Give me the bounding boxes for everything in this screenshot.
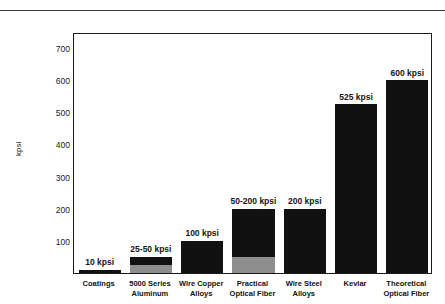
bar-wire-steel-alloys[interactable]: 200 kpsi <box>284 34 326 273</box>
bar-5000-series-aluminum[interactable]: 25-50 kpsi <box>130 34 172 273</box>
x-label-coatings: Coatings <box>73 279 124 289</box>
bar-practical-optical-fiber[interactable]: 50-200 kpsi <box>232 34 274 273</box>
x-label-practical-optical-fiber: PracticalOptical Fiber <box>227 279 278 298</box>
x-label-wire-steel-alloys: Wire SteelAlloys <box>278 279 329 298</box>
bar-wire-copper-alloys[interactable]: 100 kpsi <box>181 34 223 273</box>
bar-segment-upper <box>335 104 377 273</box>
bar-segment-upper <box>181 241 223 273</box>
bar-value-label: 525 kpsi <box>339 93 373 102</box>
bar-segment-upper <box>386 80 428 273</box>
y-tick-label-600: 600 <box>56 76 70 86</box>
bar-value-label: 200 kpsi <box>288 197 322 206</box>
x-label-theoretical-optical-fiber: TheoreticalOptical Fiber <box>381 279 432 298</box>
bar-theoretical-optical-fiber[interactable]: 600 kpsi <box>386 34 428 273</box>
y-tick-label-400: 400 <box>56 140 70 150</box>
bar-segment-upper <box>232 209 274 257</box>
bar-value-label: 600 kpsi <box>391 69 425 78</box>
y-tick-label-100: 100 <box>56 237 70 247</box>
x-label-5000-series-aluminum: 5000 SeriesAluminum <box>124 279 175 298</box>
bar-segment-upper <box>79 270 121 273</box>
bar-value-label: 100 kpsi <box>185 229 219 238</box>
bar-value-label: 25-50 kpsi <box>130 245 171 254</box>
x-label-wire-copper-alloys: Wire CopperAlloys <box>176 279 227 298</box>
y-tick-label-200: 200 <box>56 205 70 215</box>
bar-segment-upper <box>130 257 172 265</box>
x-label-kevlar: Kevlar <box>329 279 380 289</box>
y-axis-title: kpsi <box>14 142 23 156</box>
x-axis-category-labels: Coatings5000 SeriesAluminumWire CopperAl… <box>73 279 432 304</box>
bar-value-label: 50-200 kpsi <box>231 197 277 206</box>
top-crop-artifact: · · · <box>0 0 445 7</box>
bar-coatings[interactable]: 10 kpsi <box>79 34 121 273</box>
bar-value-label: 10 kpsi <box>85 258 114 267</box>
plot-area: 10 kpsi25-50 kpsi100 kpsi50-200 kpsi200 … <box>73 33 432 274</box>
y-axis-tick-labels: 700600500400300200100 <box>30 33 70 274</box>
bar-kevlar[interactable]: 525 kpsi <box>335 34 377 273</box>
bar-chart: kpsi 700600500400300200100 10 kpsi25-50 … <box>0 11 445 304</box>
bar-segment-lower-range <box>232 257 274 273</box>
y-tick-label-300: 300 <box>56 173 70 183</box>
y-tick-label-700: 700 <box>56 44 70 54</box>
bar-segment-lower-range <box>130 265 172 273</box>
bar-segment-upper <box>284 209 326 273</box>
y-tick-label-500: 500 <box>56 108 70 118</box>
